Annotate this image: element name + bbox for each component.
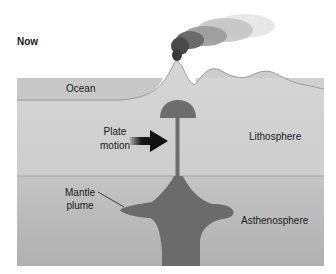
diagram-title: Now <box>17 36 38 47</box>
ocean-label: Ocean <box>66 83 95 94</box>
mantle-plume-label: Mantle plume <box>62 187 98 211</box>
plate-motion-label-line1: Plate <box>100 126 130 137</box>
plume-conduit <box>176 117 180 177</box>
mantle-plume-label-line2: plume <box>62 200 98 211</box>
plate-motion-label: Plate motion <box>100 126 130 151</box>
mantle-plume-label-line1: Mantle <box>62 187 98 198</box>
volcano-smoke <box>171 14 275 61</box>
hotspot-diagram: Now Ocean Plate motion Lithosphere Mantl… <box>0 0 336 274</box>
plate-motion-label-line2: motion <box>100 140 130 151</box>
asthenosphere-label: Asthenosphere <box>241 215 308 226</box>
lithosphere-label: Lithosphere <box>249 131 301 142</box>
